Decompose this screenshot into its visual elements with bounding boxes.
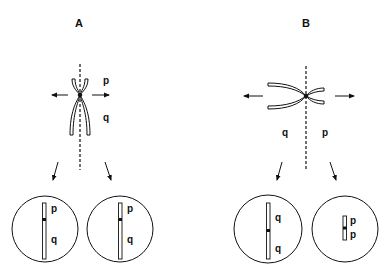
cell-label-p: p [350,229,356,240]
panel-b-label-p: p [322,127,328,138]
panel-b-title: B [302,17,310,29]
cell-label-q: q [51,234,57,245]
panel-b-daughter-cell-1: q q [234,195,302,263]
cell-label-q: q [275,212,281,223]
panel-a-arrow-down-right-icon [105,162,111,180]
panel-b-daughter-cell-2: p p [312,196,378,262]
panel-a-arrow-down-left-icon [53,162,58,180]
panel-b-chromosome [268,83,324,109]
panel-b: B q p [234,17,378,263]
cell-label-q: q [275,243,281,254]
panel-a-daughter-cell-1: p q [12,196,78,262]
panel-b-arrow-down-right-icon [330,162,336,180]
cell-label-p: p [350,215,356,226]
centromere-division-diagram: A p q p q [0,0,391,279]
panel-a-daughter-cell-2: p q [87,196,153,262]
cell-label-q: q [127,234,133,245]
panel-b-label-q: q [282,127,288,138]
panel-a-label-q: q [103,112,109,123]
panel-b-arrow-down-left-icon [277,162,282,180]
cell-label-p: p [127,203,133,214]
panel-a-label-p: p [103,75,109,86]
cell-label-p: p [51,203,57,214]
panel-a: A p q p q [12,17,153,262]
panel-a-title: A [75,17,83,29]
